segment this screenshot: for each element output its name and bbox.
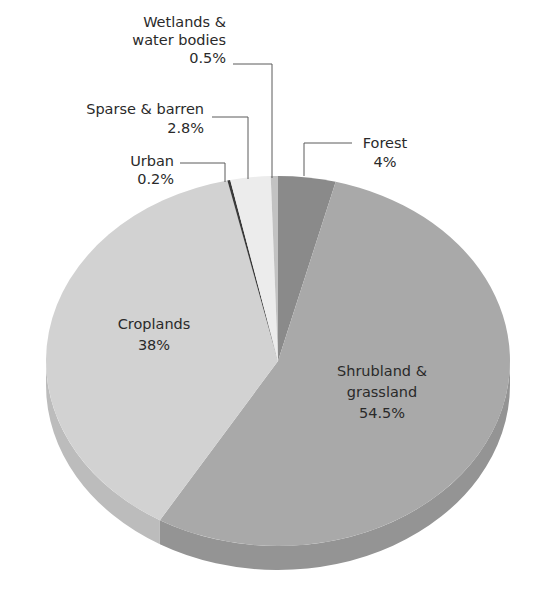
- leader-line-wetlands: [233, 64, 272, 178]
- leader-line-urban: [180, 163, 225, 182]
- label-urban-line1: Urban: [130, 153, 174, 169]
- leader-line-sparse: [212, 117, 248, 179]
- label-sparse: Sparse & barren 2.8%: [86, 101, 204, 136]
- label-wetlands: Wetlands & water bodies 0.5%: [132, 14, 226, 66]
- label-forest-value: 4%: [373, 154, 396, 170]
- label-shrubland-line1: Shrubland &: [337, 363, 427, 379]
- pie-chart: Wetlands & water bodies 0.5% Sparse & ba…: [0, 0, 540, 616]
- label-wetlands-line2: water bodies: [132, 32, 226, 48]
- label-croplands-line1: Croplands: [118, 316, 191, 332]
- label-urban-value: 0.2%: [137, 171, 174, 187]
- pie-slices: [46, 176, 510, 546]
- label-wetlands-value: 0.5%: [189, 50, 226, 66]
- label-sparse-line1: Sparse & barren: [86, 101, 204, 117]
- leader-line-forest: [304, 143, 352, 176]
- label-croplands-value: 38%: [138, 337, 170, 353]
- label-forest: Forest 4%: [363, 135, 408, 170]
- label-shrubland-line2: grassland: [347, 384, 417, 400]
- label-urban: Urban 0.2%: [130, 153, 174, 187]
- label-forest-line1: Forest: [363, 135, 408, 151]
- label-shrubland-value: 54.5%: [359, 405, 405, 421]
- leader-lines: [180, 64, 352, 182]
- label-wetlands-line1: Wetlands &: [143, 14, 226, 30]
- label-sparse-value: 2.8%: [167, 120, 204, 136]
